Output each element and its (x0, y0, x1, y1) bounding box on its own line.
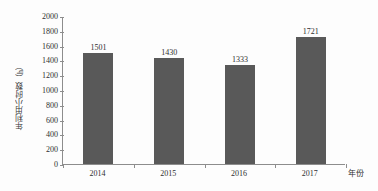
x-axis-tick-mark (205, 164, 206, 168)
plot-area: 1501143013331721 (62, 17, 345, 165)
bar-group: 1501 (63, 17, 134, 164)
x-axis-title: 年份 (348, 169, 364, 179)
bar-value-label: 1430 (161, 48, 177, 57)
y-axis-tick-label: 800 (27, 102, 58, 110)
y-axis-tick-label: 2000 (27, 13, 58, 21)
y-axis-tick-label: 1600 (27, 43, 58, 51)
x-axis-tick-mark (134, 164, 135, 168)
x-axis-tick-mark (346, 164, 347, 168)
x-axis-tick-mark (275, 164, 276, 168)
bar[interactable] (225, 65, 255, 164)
bar[interactable] (296, 37, 326, 164)
bar[interactable] (154, 58, 184, 164)
y-axis-tick-label: 1800 (27, 28, 58, 36)
y-axis-tick-label: 1200 (27, 72, 58, 80)
bar-group: 1333 (205, 17, 276, 164)
bar-group: 1721 (275, 17, 346, 164)
y-axis-tick-labels: 0200400600800100012001400160018002000 (27, 13, 58, 169)
bars-layer: 1501143013331721 (63, 17, 345, 164)
bar-value-label: 1721 (303, 27, 319, 36)
bar-value-label: 1333 (232, 55, 248, 64)
bar-group: 1430 (134, 17, 205, 164)
x-axis-tick-label: 2016 (204, 169, 275, 179)
bar-value-label: 1501 (90, 43, 106, 52)
bar[interactable] (83, 53, 113, 164)
y-axis-tick-label: 400 (27, 131, 58, 139)
y-axis-tick-label: 1400 (27, 57, 58, 65)
x-axis-tick-label: 2017 (274, 169, 345, 179)
y-axis-title: 年利用小时数（h） (13, 44, 27, 148)
bar-chart: 年利用小时数（h） 020040060080010001200140016001… (0, 0, 378, 191)
x-axis-tick-label: 2015 (133, 169, 204, 179)
x-axis-tick-label: 2014 (62, 169, 133, 179)
y-axis-tick-label: 0 (27, 161, 58, 169)
x-axis-tick-labels: 2014201520162017 (62, 169, 345, 181)
x-axis-tick-mark (63, 164, 64, 168)
y-axis-tick-label: 1000 (27, 87, 58, 95)
y-axis-tick-label: 600 (27, 117, 58, 125)
y-axis-tick-label: 200 (27, 146, 58, 154)
